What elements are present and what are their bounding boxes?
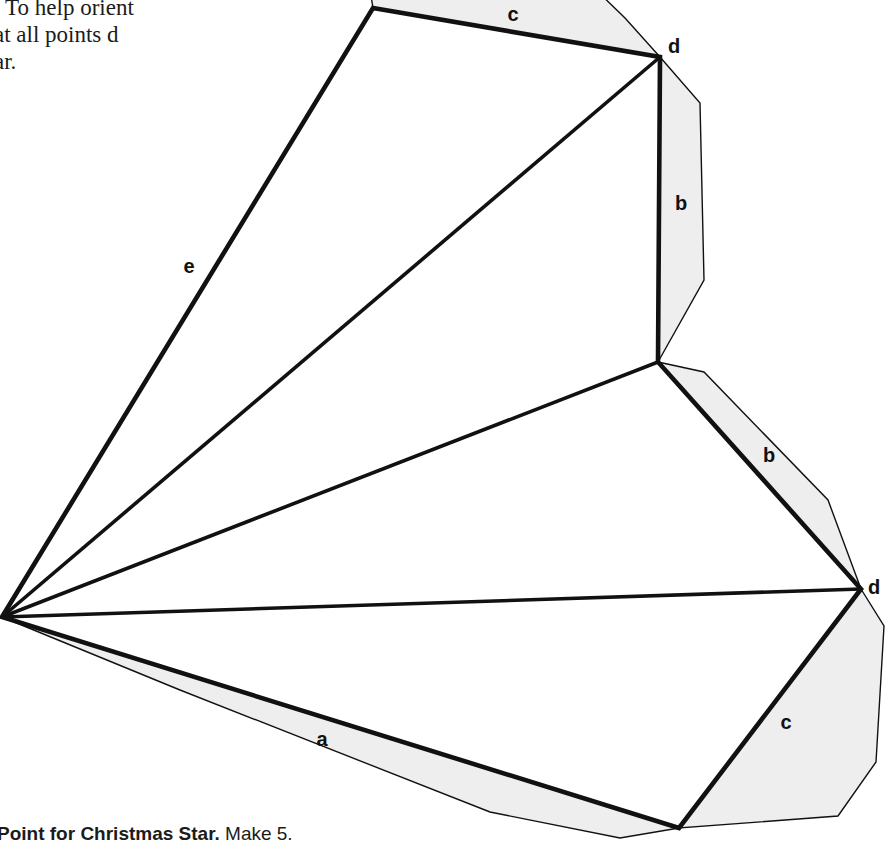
figure-caption: Point for Christmas Star. Make 5. <box>0 823 293 845</box>
edge-label-e-diagonal: e <box>183 255 194 277</box>
inner-line-to-right-d <box>2 589 861 617</box>
pattern-piece-diagram: c b b c a e d d <box>0 0 885 849</box>
edge-label-b-lower: b <box>763 444 775 466</box>
inner-line-group <box>2 57 861 617</box>
caption-note: Make 5. <box>225 823 293 844</box>
edge-label-c-top: c <box>507 3 518 25</box>
caption-title: Point for Christmas Star. <box>0 823 220 844</box>
vertex-label-d-right: d <box>868 576 880 598</box>
inner-line-to-notch <box>2 362 658 617</box>
vertex-label-d-top: d <box>668 35 680 57</box>
inner-line-to-top-d <box>2 57 660 617</box>
edge-label-c-lower: c <box>780 711 791 733</box>
edge-label-a-bottom: a <box>316 728 328 750</box>
seam-allowance-c-lower <box>679 589 884 828</box>
seam-allowance-group <box>2 0 884 838</box>
edge-label-b-upper: b <box>675 192 687 214</box>
